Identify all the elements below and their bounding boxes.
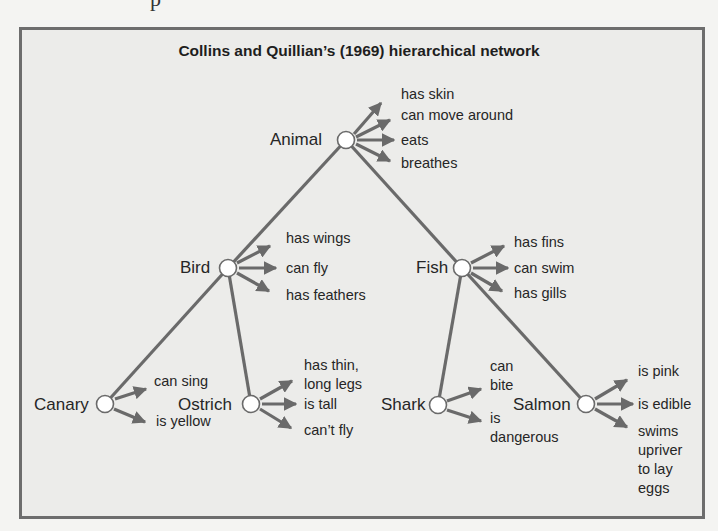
prop-fish-has-fins: has fins xyxy=(514,235,564,250)
edge-bird-ostrich xyxy=(228,268,251,404)
edge-animal-bird xyxy=(228,140,346,268)
arrow-salmon-swims xyxy=(595,409,627,427)
network-graph xyxy=(0,0,718,531)
prop-fish-has-gills: has gills xyxy=(514,286,566,301)
arrow-shark-can-bite xyxy=(447,389,481,401)
node-ostrich xyxy=(243,396,260,413)
prop-shark-can-bite: can bite xyxy=(490,357,513,395)
node-label-shark: Shark xyxy=(381,396,425,413)
node-label-ostrich: Ostrich xyxy=(178,396,232,413)
node-shark xyxy=(430,397,447,414)
prop-shark-is-dangerous: is dangerous xyxy=(490,409,559,447)
arrow-fish-has-fins xyxy=(471,246,504,263)
node-salmon xyxy=(578,396,595,413)
prop-ostrich-is-tall: is tall xyxy=(304,397,337,412)
prop-animal-breathes: breathes xyxy=(401,156,457,171)
prop-bird-has-feathers: has feathers xyxy=(286,288,366,303)
node-label-fish: Fish xyxy=(416,259,448,276)
node-label-animal: Animal xyxy=(270,131,322,148)
node-label-bird: Bird xyxy=(180,259,210,276)
arrow-animal-has-skin xyxy=(354,103,381,134)
prop-animal-has-skin: has skin xyxy=(401,87,454,102)
arrow-shark-is-dangerous xyxy=(447,410,481,421)
arrow-canary-is-yellow xyxy=(114,409,145,422)
node-label-canary: Canary xyxy=(34,396,89,413)
prop-bird-has-wings: has wings xyxy=(286,231,350,246)
prop-ostrich-thin-long-legs: has thin, long legs xyxy=(304,356,362,394)
prop-fish-can-swim: can swim xyxy=(514,261,574,276)
prop-salmon-is-pink: is pink xyxy=(638,364,679,379)
prop-salmon-swims-upriver: swims upriver to lay eggs xyxy=(638,422,682,498)
edge-fish-shark xyxy=(438,268,462,405)
prop-canary-is-yellow: is yellow xyxy=(156,414,211,429)
arrow-animal-can-move xyxy=(356,120,390,137)
prop-salmon-is-edible: is edible xyxy=(638,397,691,412)
arrow-salmon-is-pink xyxy=(595,380,627,399)
prop-animal-can-move-around: can move around xyxy=(401,108,513,123)
node-canary xyxy=(97,396,114,413)
prop-animal-eats: eats xyxy=(401,133,428,148)
prop-canary-can-sing: can sing xyxy=(154,374,208,389)
node-fish xyxy=(454,260,471,277)
arrow-ostrich-long-legs xyxy=(260,381,292,399)
prop-bird-can-fly: can fly xyxy=(286,261,328,276)
prop-ostrich-cant-fly: can’t fly xyxy=(304,423,353,438)
node-animal xyxy=(338,132,355,149)
arrow-ostrich-cant-fly xyxy=(260,409,291,428)
arrow-canary-can-sing xyxy=(115,389,146,399)
node-bird xyxy=(220,260,237,277)
arrow-bird-has-feathers xyxy=(237,273,269,291)
